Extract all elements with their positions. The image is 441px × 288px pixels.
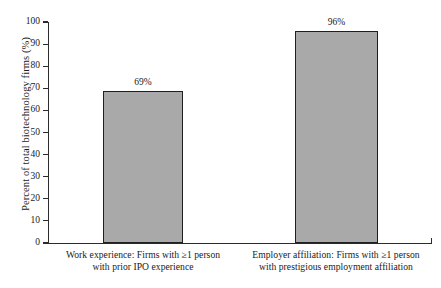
y-axis-tick-label: 40 — [14, 150, 40, 160]
y-axis-tick-label: 50 — [14, 128, 40, 138]
y-axis-tick — [43, 88, 48, 89]
bar — [295, 31, 378, 243]
x-axis-category-label: Employer affiliation: Firms with ≥1 pers… — [238, 249, 434, 274]
y-axis-tick-label: 80 — [14, 61, 40, 71]
y-axis-line — [48, 22, 49, 244]
y-axis-tick-label: 10 — [14, 216, 40, 226]
x-axis-category-label-line1: Employer affiliation: Firms with ≥1 pers… — [252, 249, 419, 260]
y-axis-tick — [43, 176, 48, 177]
x-axis-category-label-line2: with prior IPO experience — [48, 261, 238, 273]
y-axis-tick-label: 20 — [14, 194, 40, 204]
y-axis-tick-label: 60 — [14, 105, 40, 115]
bar — [103, 91, 183, 243]
y-axis-tick-label: 30 — [14, 172, 40, 182]
y-axis-tick — [43, 110, 48, 111]
y-axis-tick — [43, 132, 48, 133]
y-axis-tick — [43, 220, 48, 221]
x-axis-tick-right — [431, 238, 432, 244]
y-axis-tick — [43, 44, 48, 45]
y-axis-tick-label: 100 — [14, 17, 40, 27]
y-axis-tick-label: 0 — [14, 238, 40, 248]
y-axis-tick — [43, 66, 48, 67]
y-axis-tick — [43, 154, 48, 155]
bar-chart: Percent of total biotechnology firms (%)… — [0, 0, 441, 288]
x-axis-category-label-line1: Work experience: Firms with ≥1 person — [66, 249, 220, 260]
x-axis-line — [48, 243, 432, 244]
y-axis-tick — [43, 198, 48, 199]
y-axis-tick — [43, 21, 48, 22]
y-axis-tick-label: 90 — [14, 39, 40, 49]
x-axis-category-label-line2: with prestigious employment affiliation — [238, 261, 434, 273]
x-axis-category-label: Work experience: Firms with ≥1 personwit… — [48, 249, 238, 274]
y-axis-tick-label: 70 — [14, 83, 40, 93]
bar-value-label: 69% — [103, 77, 183, 88]
bar-value-label: 96% — [295, 17, 378, 28]
x-axis-tick-left — [48, 238, 49, 244]
